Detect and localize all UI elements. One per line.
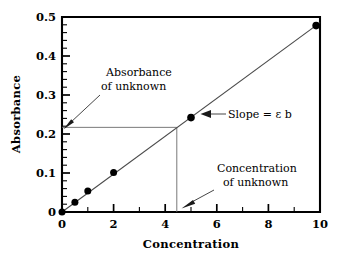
annotation-slope-arrow-icon [201, 110, 212, 118]
annotation-concentration-of-unknown: Concentration of unknown [182, 162, 297, 209]
data-point [110, 169, 117, 176]
x-tick-label-5: 10 [312, 217, 328, 231]
data-point [187, 114, 195, 122]
annotation-slope-label: Slope = ε b [228, 108, 292, 121]
y-tick-label-2: 0.2 [36, 127, 56, 141]
x-axis-title: Concentration [143, 237, 240, 251]
annotation-slope: Slope = ε b [201, 108, 292, 121]
y-axis-tick-labels: 0 0.1 0.2 0.3 0.4 0.5 [36, 10, 56, 219]
annotation-concentration-arrow-icon [182, 200, 196, 209]
annotation-absorbance-line1: Absorbance [105, 66, 172, 79]
x-tick-label-4: 8 [264, 217, 272, 231]
x-axis-tick-labels: 0 2 4 6 8 10 [58, 217, 328, 231]
data-point [71, 199, 78, 206]
y-tick-label-0: 0 [48, 205, 56, 219]
absorbance-concentration-chart: 0 0.1 0.2 0.3 0.4 0.5 0 2 4 6 8 10 Conce… [0, 0, 350, 264]
data-point [59, 209, 66, 216]
chart-canvas: 0 0.1 0.2 0.3 0.4 0.5 0 2 4 6 8 10 Conce… [0, 0, 350, 264]
y-tick-label-4: 0.4 [36, 49, 56, 63]
data-point [84, 187, 91, 194]
annotation-absorbance-of-unknown: Absorbance of unknown [64, 66, 172, 129]
x-tick-label-3: 6 [213, 217, 221, 231]
data-point [312, 22, 320, 30]
annotation-slope-suffix: b [281, 108, 292, 121]
annotation-absorbance-line2: of unknown [101, 80, 166, 93]
annotation-concentration-line2: of unknown [223, 176, 288, 189]
x-tick-label-0: 0 [58, 217, 66, 231]
annotation-concentration-line1: Concentration [217, 162, 297, 175]
x-tick-label-2: 4 [161, 217, 169, 231]
y-axis-title: Absorbance [9, 75, 23, 154]
y-axis-major-ticks [62, 17, 70, 212]
x-tick-label-1: 2 [110, 217, 118, 231]
y-tick-label-5: 0.5 [36, 10, 56, 24]
y-tick-label-1: 0.1 [36, 166, 56, 180]
annotation-slope-prefix: Slope = [228, 108, 275, 121]
y-tick-label-3: 0.3 [36, 88, 56, 102]
